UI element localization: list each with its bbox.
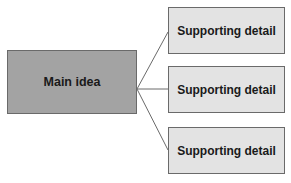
connector-to-detail-1 xyxy=(137,32,168,89)
connector-to-detail-3 xyxy=(137,89,168,150)
supporting-detail-box-3: Supporting detail xyxy=(168,127,285,174)
main-idea-box: Main idea xyxy=(7,50,137,114)
supporting-detail-label: Supporting detail xyxy=(177,24,276,38)
supporting-detail-box-2: Supporting detail xyxy=(168,66,285,113)
supporting-detail-label: Supporting detail xyxy=(177,83,276,97)
main-idea-label: Main idea xyxy=(44,75,101,89)
supporting-detail-label: Supporting detail xyxy=(177,144,276,158)
supporting-detail-box-1: Supporting detail xyxy=(168,7,285,54)
